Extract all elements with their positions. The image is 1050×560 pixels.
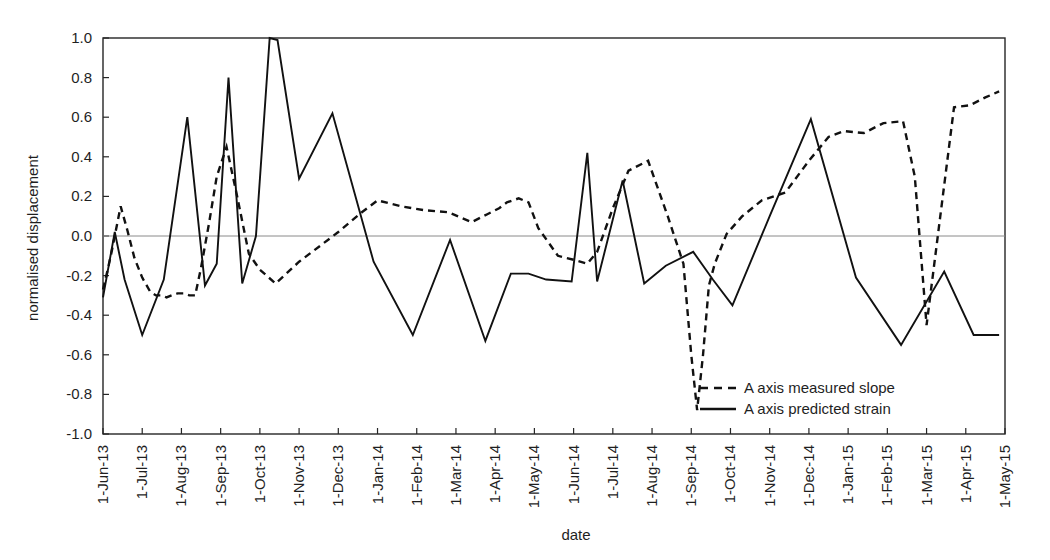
chart-figure: 1.00.80.60.40.20.0-0.2-0.4-0.6-0.8-1.0 1… [0, 0, 1050, 560]
y-tick-label: -1.0 [66, 425, 92, 442]
x-tick-label: 1-Dec-14 [800, 445, 817, 507]
y-tick-label: 0.4 [71, 148, 92, 165]
x-tick-label: 1-Jul-14 [604, 445, 621, 499]
x-tick-label: 1-Sep-14 [682, 445, 699, 507]
x-tick-label: 1-May-15 [996, 445, 1013, 508]
x-tick-label: 1-Jan-15 [839, 445, 856, 504]
x-tick-label: 1-Aug-14 [643, 445, 660, 507]
legend-label: A axis predicted strain [744, 400, 891, 417]
x-tick-label: 1-Dec-13 [329, 445, 346, 507]
x-tick-label: 1-Oct-13 [251, 445, 268, 503]
x-tick-label: 1-Jun-14 [565, 445, 582, 504]
y-tick-label: -0.6 [66, 346, 92, 363]
x-tick-label: 1-Aug-13 [172, 445, 189, 507]
y-axis-title: normalised displacement [24, 154, 41, 321]
x-tick-label: 1-Feb-14 [408, 445, 425, 506]
y-tick-label: 0.0 [71, 227, 92, 244]
x-axis-ticks: 1-Jun-131-Jul-131-Aug-131-Sep-131-Oct-13… [94, 428, 1013, 508]
x-tick-label: 1-Jan-14 [369, 445, 386, 504]
y-tick-label: -0.2 [66, 267, 92, 284]
x-tick-label: 1-Jul-13 [133, 445, 150, 499]
x-tick-label: 1-Mar-15 [918, 445, 935, 506]
line-chart: 1.00.80.60.40.20.0-0.2-0.4-0.6-0.8-1.0 1… [0, 0, 1050, 560]
y-tick-label: -0.8 [66, 385, 92, 402]
x-tick-label: 1-Sep-13 [212, 445, 229, 507]
y-tick-label: -0.4 [66, 306, 92, 323]
y-tick-label: 0.2 [71, 187, 92, 204]
x-tick-label: 1-Apr-15 [957, 445, 974, 503]
x-tick-label: 1-Apr-14 [486, 445, 503, 503]
legend-label: A axis measured slope [744, 379, 895, 396]
x-axis-title: date [561, 526, 590, 543]
x-tick-label: 1-Jun-13 [94, 445, 111, 504]
x-tick-label: 1-Feb-15 [878, 445, 895, 506]
x-tick-label: 1-Oct-14 [721, 445, 738, 503]
x-tick-label: 1-May-14 [525, 445, 542, 508]
y-tick-label: 0.6 [71, 108, 92, 125]
y-tick-label: 1.0 [71, 29, 92, 46]
y-tick-label: 0.8 [71, 69, 92, 86]
x-tick-label: 1-Nov-13 [290, 445, 307, 507]
x-tick-label: 1-Nov-14 [761, 445, 778, 507]
x-tick-label: 1-Mar-14 [447, 445, 464, 506]
